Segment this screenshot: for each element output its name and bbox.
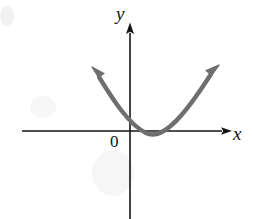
y-axis-label: y	[116, 4, 124, 23]
parabola-curve	[99, 74, 211, 135]
x-axis-label: x	[233, 124, 241, 143]
parabola-right-arrowhead	[206, 65, 219, 81]
figure-canvas	[0, 0, 253, 219]
origin-label: 0	[110, 133, 119, 150]
parabola-figure: y x 0	[0, 0, 253, 219]
